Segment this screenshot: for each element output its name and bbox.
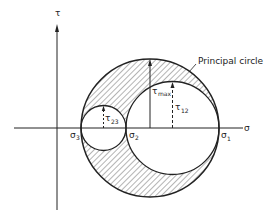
svg-text:2: 2 (135, 134, 139, 141)
svg-text:1: 1 (227, 135, 231, 142)
mohr-circle-diagram: τ σ Principal circle τ max τ 12 τ 23 σ 3… (0, 0, 277, 219)
tau-axis-label: τ (55, 8, 60, 18)
svg-text:τ: τ (152, 86, 157, 96)
sigma-axis-label: σ (244, 123, 250, 133)
svg-text:3: 3 (76, 134, 80, 141)
hatched-region (0, 0, 277, 219)
principal-circle-label: Principal circle (198, 56, 264, 66)
svg-text:23: 23 (111, 118, 119, 125)
svg-text:τ: τ (105, 113, 110, 123)
svg-text:τ: τ (175, 102, 180, 112)
svg-text:12: 12 (181, 107, 189, 114)
svg-text:max: max (158, 90, 172, 97)
